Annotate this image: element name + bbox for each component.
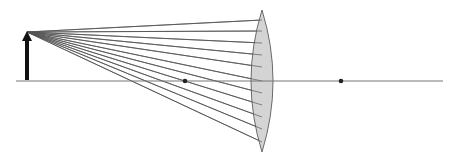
light-ray: [27, 32, 262, 105]
light-ray: [27, 32, 262, 55]
focal-point-dot: [339, 79, 344, 84]
light-ray: [27, 32, 262, 81]
light-ray: [27, 20, 262, 32]
object-arrow-icon: [22, 31, 32, 80]
light-ray: [27, 32, 262, 142]
light-ray: [27, 32, 262, 117]
diagram-svg: [0, 0, 458, 161]
ray-diagram: [0, 0, 458, 161]
focal-point-dot: [183, 79, 188, 84]
light-ray: [27, 31, 262, 32]
